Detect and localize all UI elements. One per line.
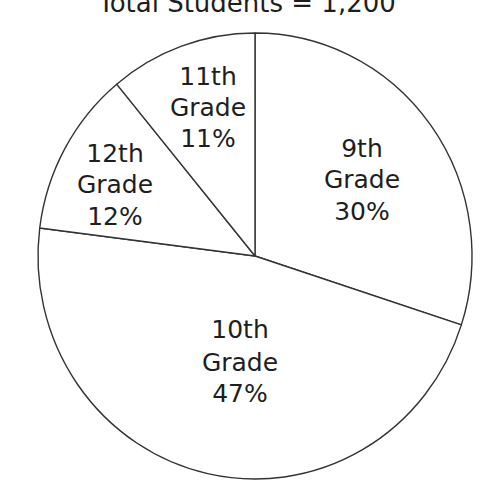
slice-label-line1: 9th — [341, 134, 383, 163]
slice-label-line2: Grade — [170, 93, 246, 122]
slice-label-line1: 11th — [179, 62, 236, 91]
slice-label-percent: 12% — [87, 202, 143, 231]
slice-label-line1: 10th — [211, 315, 268, 344]
slice-label-grade12: 12th Grade 12% — [77, 139, 153, 231]
slice-label-percent: 47% — [212, 379, 268, 408]
slice-label-line2: Grade — [202, 348, 278, 377]
slice-label-grade10: 10th Grade 47% — [202, 315, 278, 408]
slice-label-line1: 12th — [86, 139, 143, 168]
pie-slices — [38, 33, 472, 479]
slice-label-grade11: 11th Grade 11% — [170, 62, 246, 153]
slice-label-percent: 11% — [180, 124, 236, 153]
slice-label-line2: Grade — [77, 170, 153, 199]
pie-chart: Total Students = 1,200 9th Grade 30% 10t… — [0, 0, 489, 500]
slice-label-percent: 30% — [334, 197, 390, 226]
chart-title: Total Students = 1,200 — [97, 0, 396, 18]
slice-label-line2: Grade — [324, 165, 400, 194]
